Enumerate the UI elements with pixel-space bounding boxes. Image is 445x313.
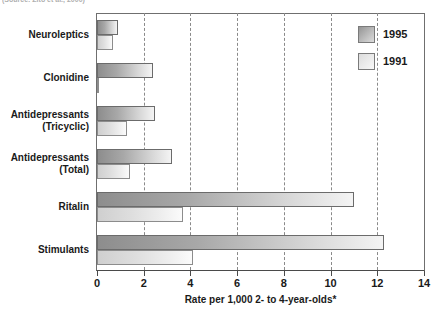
x-tick-mark <box>424 271 425 276</box>
legend-label-1995: 1995 <box>383 28 407 40</box>
gridline <box>331 13 332 270</box>
category-label-line: Neuroleptics <box>0 29 89 41</box>
category-label-line: Stimulants <box>0 244 89 256</box>
x-tick-mark <box>190 271 191 276</box>
bar-1991-antidepressants-tricyclic <box>97 121 127 136</box>
x-tick-label: 10 <box>316 277 346 289</box>
x-tick-label: 0 <box>82 277 112 289</box>
legend-swatch-1991 <box>358 53 375 70</box>
gridline <box>284 13 285 270</box>
legend-item-1995: 1995 <box>358 26 420 43</box>
category-label-antidepressants-tricyclic: Antidepressants(Tricyclic) <box>0 109 89 133</box>
category-label-line: Ritalin <box>0 201 89 213</box>
x-tick-label: 2 <box>129 277 159 289</box>
bar-1991-stimulants <box>97 250 193 265</box>
category-label-line: (Tricyclic) <box>0 121 89 133</box>
gridline <box>237 13 238 270</box>
category-label-antidepressants-total: Antidepressants(Total) <box>0 152 89 176</box>
category-label-line: Antidepressants <box>0 152 89 164</box>
bar-1995-clonidine <box>97 63 153 78</box>
bar-1995-antidepressants-tricyclic <box>97 106 155 121</box>
x-tick-mark <box>377 271 378 276</box>
chart-legend: 19951991 <box>358 26 420 80</box>
category-label-line: (Total) <box>0 164 89 176</box>
bar-1995-stimulants <box>97 235 384 250</box>
legend-swatch-1995 <box>358 26 375 43</box>
category-label-stimulants: Stimulants <box>0 244 89 256</box>
x-tick-label: 14 <box>409 277 439 289</box>
x-tick-label: 4 <box>175 277 205 289</box>
category-label-line: Clonidine <box>0 72 89 84</box>
x-tick-label: 6 <box>222 277 252 289</box>
x-tick-label: 12 <box>362 277 392 289</box>
gridline <box>190 13 191 270</box>
x-tick-mark <box>97 271 98 276</box>
x-tick-label: 8 <box>269 277 299 289</box>
category-label-ritalin: Ritalin <box>0 201 89 213</box>
bar-1995-antidepressants-total <box>97 149 172 164</box>
x-tick-mark <box>284 271 285 276</box>
x-tick-mark <box>237 271 238 276</box>
gridline <box>144 13 145 270</box>
bar-1991-neuroleptics <box>97 35 113 50</box>
bar-1991-antidepressants-total <box>97 164 130 179</box>
legend-label-1991: 1991 <box>383 55 407 67</box>
x-tick-mark <box>331 271 332 276</box>
bar-1995-neuroleptics <box>97 20 118 35</box>
bar-1991-clonidine <box>97 78 99 93</box>
bar-1995-ritalin <box>97 192 354 207</box>
x-axis-title: Rate per 1,000 2- to 4-year-olds* <box>96 294 425 305</box>
x-tick-mark <box>144 271 145 276</box>
category-label-neuroleptics: Neuroleptics <box>0 29 89 41</box>
category-label-clonidine: Clonidine <box>0 72 89 84</box>
legend-item-1991: 1991 <box>358 53 420 70</box>
bar-chart: NeurolepticsClonidineAntidepressants(Tri… <box>0 0 445 313</box>
bar-1991-ritalin <box>97 207 183 222</box>
category-label-line: Antidepressants <box>0 109 89 121</box>
